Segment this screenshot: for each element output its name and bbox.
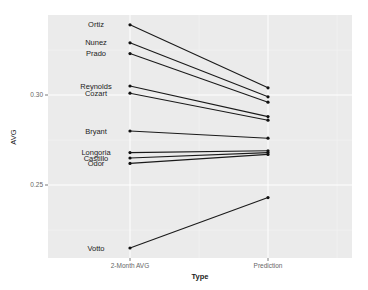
label-ortiz: Ortiz — [88, 20, 104, 29]
point-reynolds-prediction — [266, 115, 269, 118]
point-longoria-2month — [128, 151, 131, 154]
slope-chart: 0.250.30 2-Month AVGPrediction OrtizNune… — [0, 0, 368, 290]
point-prado-prediction — [266, 101, 269, 104]
x-tick-label: 2-Month AVG — [111, 262, 150, 269]
y-tick-label: 0.25 — [30, 181, 43, 188]
point-cozart-2month — [128, 92, 131, 95]
label-cozart: Cozart — [85, 89, 108, 98]
point-bryant-prediction — [266, 137, 269, 140]
point-nunez-2month — [128, 41, 131, 44]
label-votto: Votto — [87, 244, 104, 253]
y-axis-title: AVG — [9, 129, 18, 144]
point-nunez-prediction — [266, 95, 269, 98]
point-castillo-2month — [128, 156, 131, 159]
y-axis: 0.250.30 — [30, 91, 48, 188]
x-axis-title: Type — [192, 272, 209, 281]
point-odor-2month — [128, 162, 131, 165]
point-ortiz-2month — [128, 23, 131, 26]
x-tick-label: Prediction — [254, 262, 283, 269]
label-bryant: Bryant — [85, 127, 108, 136]
label-odor: Odor — [88, 159, 105, 168]
point-prado-2month — [128, 52, 131, 55]
y-tick-label: 0.30 — [30, 91, 43, 98]
point-bryant-2month — [128, 129, 131, 132]
point-reynolds-2month — [128, 84, 131, 87]
point-votto-2month — [128, 246, 131, 249]
x-axis: 2-Month AVGPrediction — [111, 258, 283, 269]
point-votto-prediction — [266, 196, 269, 199]
point-cozart-prediction — [266, 119, 269, 122]
label-prado: Prado — [86, 49, 106, 58]
point-ortiz-prediction — [266, 86, 269, 89]
point-odor-prediction — [266, 153, 269, 156]
label-nunez: Nunez — [85, 38, 107, 47]
